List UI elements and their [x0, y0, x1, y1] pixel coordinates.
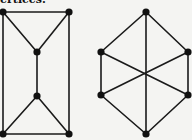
vertex-ur [184, 48, 191, 55]
vertex-t [142, 8, 149, 15]
vertex-f [65, 130, 72, 137]
left-graph [0, 8, 73, 137]
edge-ll-bt [101, 95, 146, 134]
vertex-bt [142, 130, 149, 137]
vertex-ul [97, 48, 104, 55]
edge-t-ur [146, 12, 188, 52]
right-graph [97, 8, 191, 137]
vertex-lr [184, 91, 191, 98]
graph-diagram [0, 0, 192, 140]
vertex-c [33, 48, 40, 55]
vertex-b [65, 8, 72, 15]
edge-d-f [37, 96, 69, 134]
vertex-ll [97, 91, 104, 98]
edge-b-c [37, 12, 69, 52]
edge-lr-bt [146, 95, 188, 134]
edge-d-e [3, 96, 37, 134]
edge-a-c [3, 12, 37, 52]
vertex-d [33, 92, 40, 99]
edge-t-ul [101, 12, 146, 52]
